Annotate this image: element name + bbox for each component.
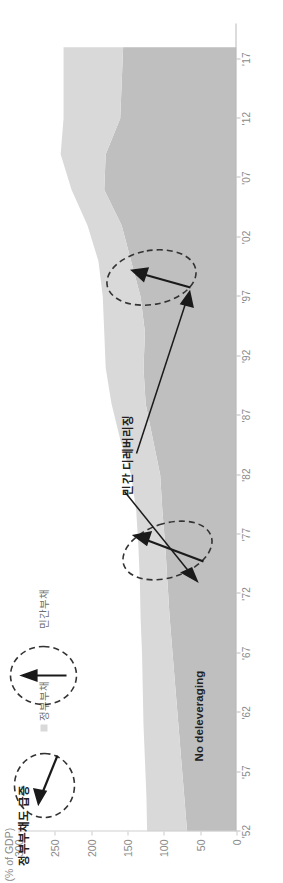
x-tick-mark <box>236 652 240 653</box>
x-tick-mark <box>236 771 240 772</box>
y-tick-mark <box>200 831 201 835</box>
x-tick-mark <box>236 295 240 296</box>
x-tick-mark <box>236 414 240 415</box>
annotation-private-deleveraging: 민간 디레버리징 <box>118 414 134 495</box>
y-tick-mark <box>54 831 55 835</box>
x-tick-label: '97 <box>240 289 251 303</box>
x-tick-mark <box>236 117 240 118</box>
legend-swatch-government <box>40 724 47 731</box>
y-tick-label: 50 <box>194 839 206 851</box>
annotation-government-debt-surge: 정부부채도 급증 <box>14 784 30 865</box>
y-tick-mark <box>236 831 237 835</box>
x-axis-line <box>235 23 236 831</box>
x-tick-label: '87 <box>240 408 251 422</box>
x-tick-label: '62 <box>240 705 251 719</box>
x-tick-label: '67 <box>240 646 251 660</box>
y-tick-label: 100 <box>157 839 169 857</box>
x-tick-label: '52 <box>240 824 251 838</box>
x-tick-label: '12 <box>240 111 251 125</box>
legend-label-government: 정부부채 <box>38 680 49 720</box>
x-tick-mark <box>236 533 240 534</box>
x-tick-mark <box>236 58 240 59</box>
x-tick-mark <box>236 592 240 593</box>
y-tick-mark <box>91 831 92 835</box>
y-tick-mark <box>163 831 164 835</box>
x-tick-mark <box>236 474 240 475</box>
rotated-chart-stage: '52'57'62'67'72'77'82'87'92'97'02'07'12'… <box>0 0 283 883</box>
x-tick-label: '82 <box>240 468 251 482</box>
x-tick-mark <box>236 355 240 356</box>
x-tick-label: '17 <box>240 52 251 66</box>
x-tick-label: '77 <box>240 527 251 541</box>
x-tick-mark <box>236 236 240 237</box>
y-tick-mark <box>127 831 128 835</box>
x-tick-label: '02 <box>240 230 251 244</box>
legend-label-private: 민간부채 <box>38 588 49 628</box>
x-tick-mark <box>236 711 240 712</box>
legend-item-private-debt: 민간부채 <box>38 588 49 628</box>
annotation-no-deleveraging: No deleveraging <box>192 670 204 761</box>
y-axis-title: (% of GDP) <box>2 827 14 881</box>
x-tick-mark <box>236 176 240 177</box>
y-tick-label: 0 <box>230 839 242 845</box>
x-tick-label: '57 <box>240 765 251 779</box>
y-tick-label: 150 <box>121 839 133 857</box>
y-tick-label: 250 <box>48 839 60 857</box>
x-tick-label: '07 <box>240 171 251 185</box>
x-tick-label: '72 <box>240 587 251 601</box>
x-tick-label: '92 <box>240 349 251 363</box>
legend-item-government-debt: 정부부채 <box>38 680 49 731</box>
chart-figure: '52'57'62'67'72'77'82'87'92'97'02'07'12'… <box>0 0 283 883</box>
y-tick-label: 200 <box>85 839 97 857</box>
